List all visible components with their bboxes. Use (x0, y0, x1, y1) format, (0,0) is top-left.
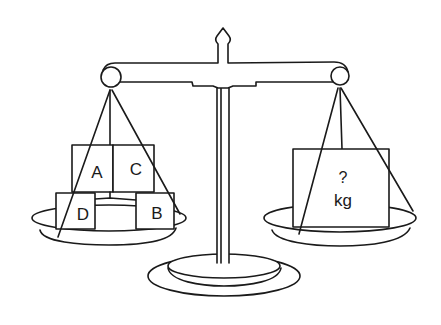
right-pan: ? kg (264, 88, 416, 246)
block-d: D (56, 193, 95, 229)
block-c: C (113, 145, 154, 192)
left-pan: A C D B (32, 90, 186, 245)
right-pivot-ring (331, 67, 349, 85)
block-a: A (72, 145, 113, 192)
left-pivot-ring (101, 67, 121, 87)
scale-column (217, 80, 229, 266)
balance-scale-diagram: A C D B ? kg (0, 0, 441, 325)
block-d-label: D (77, 205, 89, 224)
block-b-label: B (151, 204, 162, 223)
unknown-weight-question: ? (339, 169, 348, 186)
block-a-label: A (91, 163, 103, 182)
unknown-weight-unit: kg (334, 191, 352, 210)
block-c-label: C (130, 160, 142, 179)
scale-beam (101, 28, 349, 88)
block-b: B (136, 193, 174, 229)
unknown-weight-block: ? kg (293, 149, 389, 227)
right-center-cord (340, 88, 342, 149)
